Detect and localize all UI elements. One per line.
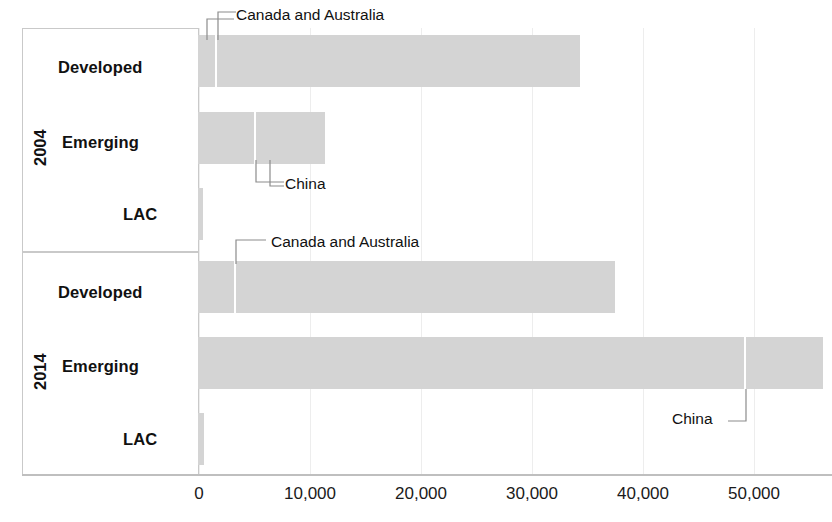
x-tick-label-20000: 20,000	[371, 484, 471, 504]
callout-china-2014: China	[672, 410, 713, 428]
bar-segment-china-2004	[256, 112, 325, 164]
bar-segment-other-developed-2014	[236, 261, 615, 313]
leader-line-canada-australia-2004	[206, 10, 240, 40]
group-label-2004: 2004	[31, 129, 50, 166]
bar-lac-2014	[198, 413, 204, 465]
x-axis-line	[22, 474, 832, 476]
bar-segment-china-2014	[198, 337, 746, 389]
gridline-30000	[532, 28, 533, 475]
x-tick-label-50000: 50,000	[704, 484, 804, 504]
category-label-developed-2014: Developed	[58, 283, 142, 302]
category-label-emerging-2014: Emerging	[62, 357, 139, 376]
leader-line-china-2004	[254, 160, 288, 190]
leader-line-canada-australia-2014	[234, 236, 270, 264]
bar-segment-other-emerging-2004	[198, 112, 256, 164]
category-label-lac-2014: LAC	[123, 430, 157, 449]
gridline-40000	[643, 28, 644, 475]
callout-canada-australia-2014: Canada and Australia	[271, 233, 419, 251]
bar-developed-2014	[198, 261, 615, 313]
x-tick-label-0: 0	[169, 484, 229, 504]
bar-emerging-2014	[198, 337, 823, 389]
group-label-2014: 2014	[31, 353, 50, 390]
bar-lac-2004	[198, 188, 203, 240]
bar-emerging-2004	[198, 112, 325, 164]
category-label-lac-2004: LAC	[123, 205, 157, 224]
bar-developed-2004	[198, 35, 580, 87]
leader-line-china-2014	[728, 389, 758, 425]
gridline-20000	[421, 28, 422, 475]
bar-segment-lac-2004	[198, 188, 203, 240]
callout-china-2004: China	[285, 175, 326, 193]
bar-segment-canada-australia-2004	[198, 35, 217, 87]
bar-segment-other-developed-2004	[217, 35, 580, 87]
category-label-emerging-2004: Emerging	[62, 133, 139, 152]
bar-segment-canada-australia-2014	[198, 261, 236, 313]
x-tick-label-40000: 40,000	[593, 484, 693, 504]
gridline-10000	[310, 28, 311, 475]
category-label-developed-2004: Developed	[58, 58, 142, 77]
callout-canada-australia-2004: Canada and Australia	[236, 6, 384, 24]
x-tick-label-10000: 10,000	[260, 484, 360, 504]
bar-segment-lac-2014	[198, 413, 204, 465]
bar-segment-other-emerging-2014	[746, 337, 823, 389]
gridline-0	[199, 28, 200, 475]
stacked-bar-chart: 2004 2014 Developed Emerging LAC Develop…	[0, 0, 832, 522]
x-tick-label-30000: 30,000	[482, 484, 582, 504]
